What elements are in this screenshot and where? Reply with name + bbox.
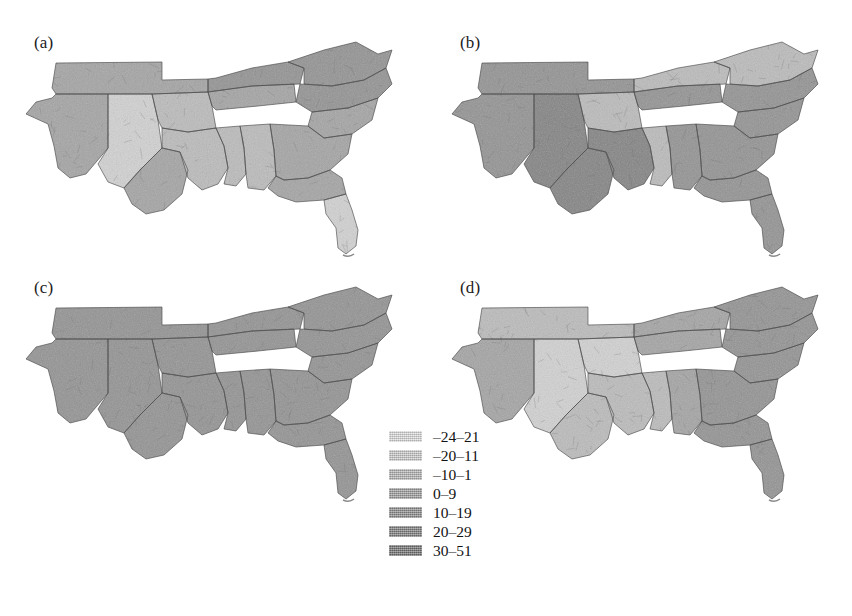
legend-swatch [389,545,422,556]
legend-label: –10–1 [433,467,472,483]
legend-item: –10–1 [389,465,519,484]
legend-swatch [389,488,422,499]
legend-item: 0–9 [389,484,519,503]
legend-item: 20–29 [389,522,519,541]
legend-label: –20–11 [433,448,479,464]
panel-c: (c) [0,255,426,533]
legend-item: –24–21 [389,427,519,446]
map-b [438,28,838,258]
legend-swatch [389,450,422,461]
map-c [12,273,412,503]
figure-choropleth-grid: (a) (b) (c) (d) –24–21–20–11–10–10–910–1… [0,0,852,616]
legend-label: 10–19 [433,505,472,521]
legend-item: –20–11 [389,446,519,465]
map-a [12,28,412,258]
florida-keys [769,499,780,501]
map-svg-c [12,273,412,503]
legend-label: 0–9 [433,486,456,502]
legend-swatch [389,507,422,518]
panel-label-c: (c) [34,279,53,296]
panel-label-b: (b) [460,34,480,51]
panel-label-d: (d) [460,279,480,296]
florida-keys [343,499,354,501]
legend-swatch [389,526,422,537]
legend-swatch [389,431,422,442]
legend-label: 20–29 [433,524,472,540]
map-svg-a [12,28,412,258]
map-svg-b [438,28,838,258]
legend-label: –24–21 [433,429,480,445]
legend-item: 30–51 [389,541,519,560]
legend-item: 10–19 [389,503,519,522]
panel-a: (a) [0,10,426,288]
legend: –24–21–20–11–10–10–910–1920–2930–51 [389,427,519,560]
legend-swatch [389,469,422,480]
panel-label-a: (a) [34,34,53,51]
panel-b: (b) [426,10,852,288]
legend-label: 30–51 [433,543,472,559]
